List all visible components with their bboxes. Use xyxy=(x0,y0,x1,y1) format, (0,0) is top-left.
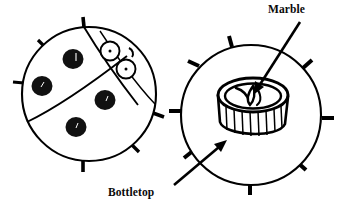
ridge-3 xyxy=(242,110,243,135)
ridge-5 xyxy=(258,111,259,136)
ridge-8 xyxy=(281,106,282,128)
ridge-1 xyxy=(226,107,227,130)
eye-left-pupil xyxy=(109,50,112,53)
spot-1 xyxy=(63,49,84,69)
diagram-svg: Marble Bottletop xyxy=(0,0,337,208)
eye-right-pupil xyxy=(125,68,128,71)
spot-3 xyxy=(95,90,116,110)
ridge-7 xyxy=(274,109,275,132)
leg-top xyxy=(83,17,84,27)
diagram-canvas: Marble Bottletop xyxy=(0,0,337,208)
marble-label: Marble xyxy=(268,3,305,15)
ridge-4 xyxy=(250,111,251,136)
ridge-2 xyxy=(234,109,235,133)
ridge-6 xyxy=(266,110,267,135)
bottletop-label: Bottletop xyxy=(108,186,154,199)
